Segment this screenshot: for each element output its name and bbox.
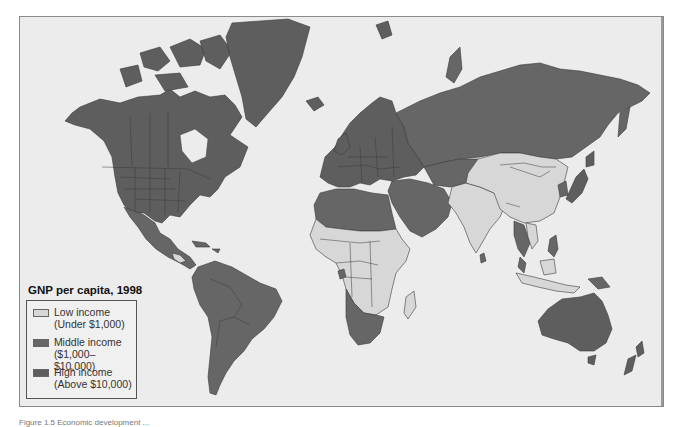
legend-range-low: (Under $1,000) bbox=[54, 318, 125, 330]
legend-title: GNP per capita, 1998 bbox=[28, 284, 142, 296]
region-north-america bbox=[65, 89, 248, 223]
legend-label-low: Low income bbox=[54, 306, 125, 318]
swatch-low bbox=[33, 309, 49, 317]
region-middle-east bbox=[388, 179, 452, 237]
legend-item-high: High income (Above $10,000) bbox=[33, 366, 132, 390]
region-sub-saharan-africa bbox=[310, 219, 410, 315]
legend: Low income (Under $1,000) Middle income … bbox=[26, 300, 137, 399]
region-australia bbox=[538, 293, 612, 351]
legend-label-middle: Middle income bbox=[54, 336, 136, 348]
region-indonesia bbox=[516, 273, 580, 293]
region-new-zealand bbox=[636, 341, 644, 357]
legend-label-high: High income bbox=[54, 366, 132, 378]
legend-item-low: Low income (Under $1,000) bbox=[33, 306, 125, 330]
region-russia bbox=[396, 63, 650, 167]
swatch-middle bbox=[33, 339, 49, 347]
region-japan bbox=[566, 169, 588, 203]
legend-range-high: (Above $10,000) bbox=[54, 378, 132, 390]
figure-caption: Figure 1.5 Economic development ... bbox=[19, 418, 149, 427]
swatch-high bbox=[33, 369, 49, 377]
region-south-america bbox=[192, 261, 282, 395]
map-frame: GNP per capita, 1998 Low income (Under $… bbox=[19, 16, 664, 407]
region-north-africa bbox=[314, 189, 396, 231]
